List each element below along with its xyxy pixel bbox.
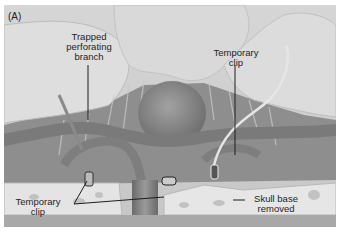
annotation-trapped-perforating-branch: Trapped perforating branch: [60, 32, 118, 62]
annotation-temporary-clip-left: Temporary clip: [10, 197, 66, 217]
annotation-skull-base-removed: Skull base removed: [247, 194, 305, 214]
panel-label: (A): [8, 11, 21, 22]
surgical-illustration: (A) Trapped perforating branch Temporary…: [4, 5, 336, 227]
annotation-temporary-clip-right: Temporary clip: [208, 48, 264, 68]
